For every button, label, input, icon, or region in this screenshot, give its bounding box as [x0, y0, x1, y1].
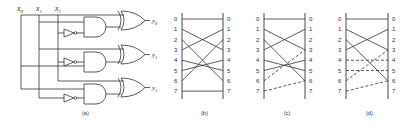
xor-gate-icon	[121, 11, 145, 30]
and-gate-icon	[84, 52, 106, 72]
output-label-y1: y1	[151, 51, 157, 60]
row-label-right: 2	[227, 37, 231, 43]
row-label-right: 3	[227, 47, 231, 53]
row-label-left: 6	[256, 78, 260, 84]
row-label-right: 7	[392, 88, 396, 94]
row-label-left: 3	[338, 47, 342, 53]
caption-d: (d)	[366, 110, 373, 116]
row-label-right: 5	[227, 68, 231, 74]
row-label-right: 4	[392, 57, 396, 63]
row-label-left: 4	[256, 57, 260, 63]
xor-gate-icon	[121, 45, 145, 64]
row-label-right: 6	[227, 78, 231, 84]
row-label-left: 6	[338, 78, 342, 84]
xor-back-arc-icon	[118, 45, 121, 64]
row-label-right: 7	[227, 88, 231, 94]
row-label-left: 3	[256, 47, 260, 53]
row-label-left: 1	[338, 26, 342, 32]
row-label-right: 1	[309, 26, 313, 32]
row-label-right: 1	[392, 26, 396, 32]
mapping-line-dashed	[264, 81, 305, 91]
output-label-y2: y2	[151, 84, 158, 93]
row-label-left: 7	[256, 88, 260, 94]
row-label-right: 0	[227, 16, 231, 22]
row-label-left: 6	[174, 78, 178, 84]
input-label-x0: x0	[16, 4, 24, 14]
xor-gate-icon	[121, 78, 145, 97]
row-label-right: 4	[309, 57, 313, 63]
row-label-left: 4	[338, 57, 342, 63]
figure: x0 x1 x2 y0 y1	[0, 0, 411, 124]
input-label-x1: x1	[35, 4, 42, 14]
row-label-left: 1	[256, 26, 260, 32]
row-label-right: 1	[227, 26, 231, 32]
input-label-x2: x2	[54, 4, 62, 14]
row-label-left: 7	[174, 88, 178, 94]
row-label-left: 2	[338, 37, 342, 43]
row-label-right: 6	[309, 78, 313, 84]
permutation-panel-b: 0011223344556677	[174, 13, 231, 99]
row-label-right: 0	[392, 16, 396, 22]
and-gate-icon	[84, 17, 106, 37]
mapping-line-dashed	[346, 50, 388, 81]
row-label-left: 5	[174, 68, 178, 74]
and-gate-icon	[84, 84, 106, 104]
row-label-left: 0	[174, 16, 178, 22]
row-label-right: 3	[309, 47, 313, 53]
inverter-bubble-icon	[74, 32, 77, 35]
row-label-left: 7	[338, 88, 342, 94]
row-label-right: 7	[309, 88, 313, 94]
not-gate-icon	[64, 58, 74, 66]
row-label-left: 0	[338, 16, 342, 22]
row-label-right: 5	[392, 68, 396, 74]
caption-b: (b)	[201, 110, 208, 116]
row-label-left: 2	[174, 37, 178, 43]
output-label-y0: y0	[151, 17, 158, 26]
row-label-right: 5	[309, 68, 313, 74]
row-label-right: 0	[309, 16, 313, 22]
row-label-left: 3	[174, 47, 178, 53]
not-gate-icon	[64, 94, 74, 102]
row-label-right: 3	[392, 47, 396, 53]
diagram-canvas: x0 x1 x2 y0 y1	[0, 0, 411, 124]
row-label-right: 4	[227, 57, 231, 63]
permutation-panel-c: 0011223344556677	[256, 13, 313, 99]
permutation-panel-d: 0011223344556677	[338, 13, 396, 99]
row-label-left: 0	[256, 16, 260, 22]
row-label-left: 2	[256, 37, 260, 43]
row-label-left: 5	[338, 68, 342, 74]
not-gate-icon	[64, 29, 74, 37]
mapping-line-dashed	[346, 81, 388, 91]
row-label-left: 4	[174, 57, 178, 63]
inverter-bubble-icon	[74, 61, 77, 64]
row-label-right: 2	[392, 37, 396, 43]
row-label-right: 2	[309, 37, 313, 43]
circuit-panel-a: x0 x1 x2 y0 y1	[16, 4, 158, 104]
row-label-right: 6	[392, 78, 396, 84]
inverter-bubble-icon	[74, 97, 77, 100]
caption-c: (c)	[284, 110, 291, 116]
mapping-line-dashed	[264, 50, 305, 81]
caption-a: (a)	[82, 110, 89, 116]
row-label-left: 5	[256, 68, 260, 74]
mapping-line-solid	[264, 40, 305, 81]
row-label-left: 1	[174, 26, 178, 32]
